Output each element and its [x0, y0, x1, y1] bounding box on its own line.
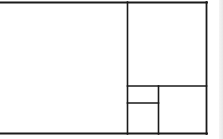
- large-square: [0, 3, 128, 134]
- upper-right-square: [128, 3, 207, 87]
- lower-right-square: [159, 86, 207, 134]
- small-upper-rect: [128, 86, 159, 103]
- diagram-drawing: [0, 0, 223, 139]
- small-lower-square: [128, 103, 159, 134]
- page-edge-strip: [219, 0, 223, 139]
- golden-rectangle-diagram: [0, 0, 223, 139]
